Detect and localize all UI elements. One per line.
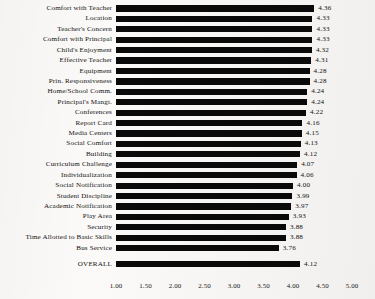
x-tick-4-50: 4.50: [316, 281, 328, 291]
value-label-time-allotted-to-basic-skills: 3.88: [286, 232, 303, 243]
bar-comfort-with-teacher: [116, 5, 314, 11]
category-label-individualization: Individualization: [0, 170, 112, 181]
value-label-overall: 4.12: [300, 259, 317, 270]
bar-row: Individualization4.06: [0, 170, 375, 181]
bar-row: Comfort with Principal4.33: [0, 34, 375, 45]
x-tick-1-50: 1.50: [139, 281, 151, 291]
bar-overall: [116, 261, 300, 267]
bar-equipment: [116, 68, 310, 74]
bar-track: 3.97: [116, 201, 352, 212]
value-label-student-discipline: 3.99: [292, 191, 309, 202]
value-label-individualization: 4.06: [297, 170, 314, 181]
bar-row: Home/School Comm.4.24: [0, 86, 375, 97]
bar-track: 4.28: [116, 66, 352, 77]
bar-row: Academic Notification3.97: [0, 201, 375, 212]
bar-track: 4.36: [116, 3, 352, 14]
bar-track: 4.06: [116, 170, 352, 181]
bar-child-s-enjoyment: [116, 47, 312, 53]
value-label-report-card: 4.16: [302, 118, 319, 129]
bar-track: 3.93: [116, 211, 352, 222]
bar-row: Security3.88: [0, 222, 375, 233]
bar-row: Location4.33: [0, 13, 375, 24]
bar-report-card: [116, 120, 302, 126]
bar-track: 4.12: [116, 259, 352, 270]
category-label-academic-notification: Academic Notification: [0, 201, 112, 212]
value-label-social-notification: 4.00: [293, 180, 310, 191]
bar-row: Comfort with Teacher4.36: [0, 3, 375, 14]
value-label-curriculum-challenge: 4.07: [297, 159, 314, 170]
bar-time-allotted-to-basic-skills: [116, 235, 286, 241]
value-label-home-school-comm: 4.24: [307, 86, 324, 97]
bar-track: 4.32: [116, 45, 352, 56]
category-label-curriculum-challenge: Curriculum Challenge: [0, 159, 112, 170]
bar-location: [116, 16, 312, 22]
value-label-bus-service: 3.76: [279, 243, 296, 254]
value-label-teacher-s-concern: 4.33: [312, 24, 329, 35]
bar-row: Building4.12: [0, 149, 375, 160]
value-label-location: 4.33: [312, 13, 329, 24]
x-tick-2-00: 2.00: [169, 281, 181, 291]
bar-track: 4.31: [116, 55, 352, 66]
bar-individualization: [116, 172, 297, 178]
category-label-comfort-with-principal: Comfort with Principal: [0, 34, 112, 45]
bar-row: Play Area3.93: [0, 211, 375, 222]
bar-track: 4.33: [116, 24, 352, 35]
bar-conferences: [116, 110, 306, 116]
bar-building: [116, 151, 300, 157]
bar-row: Child's Enjoyment4.32: [0, 45, 375, 56]
category-label-conferences: Conferences: [0, 107, 112, 118]
value-label-prin-responsiveness: 4.28: [310, 76, 327, 87]
value-label-effective-teacher: 4.31: [311, 55, 328, 66]
bar-comfort-with-principal: [116, 37, 312, 43]
value-label-conferences: 4.22: [306, 107, 323, 118]
bar-media-centers: [116, 130, 302, 136]
x-tick-5-00: 5.00: [346, 281, 358, 291]
category-label-child-s-enjoyment: Child's Enjoyment: [0, 45, 112, 56]
value-label-social-comfort: 4.13: [301, 138, 318, 149]
category-label-teacher-s-concern: Teacher's Concern: [0, 24, 112, 35]
category-label-building: Building: [0, 149, 112, 160]
bar-track: 4.00: [116, 180, 352, 191]
bar-track: 4.12: [116, 149, 352, 160]
bar-row: Effective Teacher4.31: [0, 55, 375, 66]
bar-row: Curriculum Challenge4.07: [0, 159, 375, 170]
value-label-building: 4.12: [300, 149, 317, 160]
bar-track: 3.99: [116, 191, 352, 202]
x-tick-1-00: 1.00: [110, 281, 122, 291]
bar-row: OVERALL4.12: [0, 259, 375, 270]
bar-social-comfort: [116, 141, 301, 147]
bar-security: [116, 224, 286, 230]
bar-track: 4.24: [116, 86, 352, 97]
value-label-child-s-enjoyment: 4.32: [312, 45, 329, 56]
bar-row: Conferences4.22: [0, 107, 375, 118]
x-tick-3-00: 3.00: [228, 281, 240, 291]
plot-area: Comfort with Teacher4.36Location4.33Teac…: [0, 0, 375, 299]
bar-chart-figure: Comfort with Teacher4.36Location4.33Teac…: [0, 0, 375, 299]
category-label-bus-service: Bus Service: [0, 243, 112, 254]
bar-track: 4.33: [116, 34, 352, 45]
bar-track: 4.28: [116, 76, 352, 87]
bar-track: 4.07: [116, 159, 352, 170]
category-label-time-allotted-to-basic-skills: Time Allotted to Basic Skills: [0, 232, 112, 243]
bar-bus-service: [116, 245, 279, 251]
category-label-prin-responsiveness: Prin. Responsiveness: [0, 76, 112, 87]
value-label-comfort-with-principal: 4.33: [312, 34, 329, 45]
value-label-academic-notification: 3.97: [291, 201, 308, 212]
x-tick-4-00: 4.00: [287, 281, 299, 291]
bar-principal-s-mangt: [116, 99, 307, 105]
category-label-home-school-comm: Home/School Comm.: [0, 86, 112, 97]
bar-academic-notification: [116, 203, 291, 209]
category-label-social-comfort: Social Comfort: [0, 138, 112, 149]
bar-row: Principal's Mangt.4.24: [0, 97, 375, 108]
x-tick-3-50: 3.50: [257, 281, 269, 291]
category-label-social-notification: Social Notification: [0, 180, 112, 191]
bar-track: 4.16: [116, 118, 352, 129]
bar-track: 4.24: [116, 97, 352, 108]
category-label-student-discipline: Student Discipline: [0, 191, 112, 202]
category-label-effective-teacher: Effective Teacher: [0, 55, 112, 66]
bar-track: 3.76: [116, 243, 352, 254]
x-tick-2-50: 2.50: [198, 281, 210, 291]
category-label-comfort-with-teacher: Comfort with Teacher: [0, 3, 112, 14]
bar-track: 4.22: [116, 107, 352, 118]
value-label-comfort-with-teacher: 4.36: [314, 3, 331, 14]
